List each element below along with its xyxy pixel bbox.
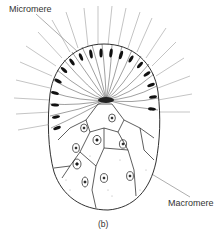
micromere-label: Micromere <box>9 4 52 14</box>
micromere-leader-line <box>36 14 78 52</box>
panel-label: (b) <box>98 219 108 229</box>
convergence-point <box>98 97 114 103</box>
macromere-label: Macromere <box>168 198 214 208</box>
